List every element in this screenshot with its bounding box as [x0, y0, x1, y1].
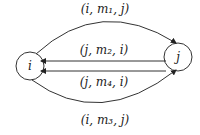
- edge-label-m1: (i, m₁, j): [81, 2, 129, 16]
- node-i-label: i: [28, 59, 32, 73]
- edge-label-m4: (j, m₄, i): [80, 75, 128, 89]
- edge-label-m3: (i, m₃, j): [81, 113, 129, 127]
- node-j-label: j: [176, 50, 180, 64]
- edge-label-m2: (j, m₂, i): [80, 43, 128, 57]
- message-graph-diagram: i j (i, m₁, j) (j, m₂, i) (j, m₄, i) (i,…: [0, 0, 200, 135]
